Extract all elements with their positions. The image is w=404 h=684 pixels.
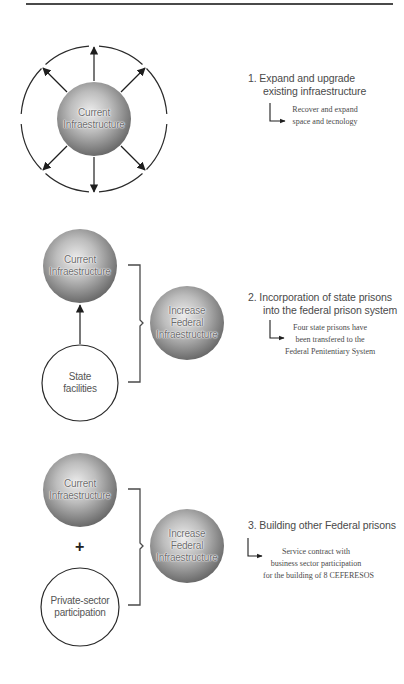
node-label-line: Increase <box>169 528 206 540</box>
step2-description: Four state prisons have been transfered … <box>285 322 375 358</box>
node-label-line: Current <box>78 107 110 119</box>
description-line: business sector participation <box>263 558 369 570</box>
description-line: Service contract with <box>263 546 369 558</box>
brace-icon <box>128 265 143 382</box>
node-private-sector-participation: Private-sector participation <box>41 592 119 622</box>
description-line: for the building of 8 CEFERESOS <box>263 570 369 582</box>
node-current-infrastructure: Current Infraestructure <box>43 251 117 281</box>
node-label-line: participation <box>54 607 105 619</box>
description-line: Four state prisons have <box>285 322 375 334</box>
arrow-up-right-icon <box>121 68 145 92</box>
step3-description: Service contract with business sector pa… <box>263 546 369 582</box>
node-label-line: Infraestructure <box>49 490 110 502</box>
step1-title: 1. Expand and upgrade existing infraestr… <box>248 72 366 98</box>
node-label-line: Infraestructure <box>63 119 124 131</box>
step-title-line: into the federal prison system <box>248 304 397 317</box>
step-title-line: existing infraestructure <box>248 85 366 98</box>
step-title-line: 3. Building other Federal prisons <box>248 519 396 531</box>
node-label-line: Current <box>64 478 96 490</box>
node-label-line: Current <box>64 254 96 266</box>
node-current-infrastructure: Current Infraestructure <box>57 104 131 134</box>
node-state-facilities: State facilities <box>43 368 117 398</box>
plus-icon: + <box>75 539 84 555</box>
step-title-line: 2. Incorporation of state prisons <box>248 291 392 303</box>
arrow-down-left-icon <box>43 146 67 170</box>
step3-connector-icon <box>248 538 262 556</box>
node-increase-federal-infrastructure: Increase Federal Infraestructure <box>150 525 224 567</box>
description-line: Federal Penitentiary System <box>285 346 375 358</box>
arrow-down-right-icon <box>121 146 145 170</box>
node-label-line: facilities <box>63 383 97 395</box>
node-label-line: Federal <box>171 317 204 329</box>
brace-icon <box>128 489 143 605</box>
node-label-line: Infraestructure <box>49 266 110 278</box>
node-label-line: State <box>69 371 91 383</box>
node-label-line: Infraestructure <box>156 329 217 341</box>
step-title-line: 1. Expand and upgrade <box>248 72 355 84</box>
step3-title: 3. Building other Federal prisons <box>248 519 396 532</box>
arrow-up-left-icon <box>43 68 67 92</box>
node-current-infrastructure: Current Infraestructure <box>43 475 117 505</box>
description-line: been transfered to the <box>285 334 375 346</box>
description-line: Recover and expand <box>290 104 360 116</box>
description-line: space and tecnology <box>290 116 360 128</box>
node-increase-federal-infrastructure: Increase Federal Infraestructure <box>150 302 224 344</box>
step1-connector-icon <box>270 103 285 121</box>
step2-title: 2. Incorporation of state prisons into t… <box>248 291 397 317</box>
step2-connector-icon <box>270 320 284 338</box>
node-label-line: Private-sector <box>51 595 110 607</box>
node-label-line: Infraestructure <box>156 552 217 564</box>
node-label-line: Increase <box>169 305 206 317</box>
step1-description: Recover and expand space and tecnology <box>290 104 360 128</box>
node-label-line: Federal <box>171 540 204 552</box>
